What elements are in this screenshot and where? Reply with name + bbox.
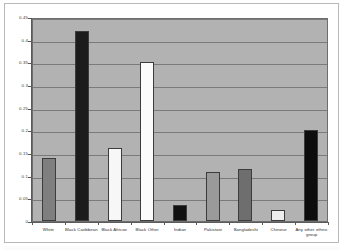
y-axis-tick-label: 0 (0, 219, 28, 224)
x-axis-tick-mark (98, 222, 99, 225)
bar (173, 205, 187, 221)
x-axis-tick-label: Black Caribbean (65, 227, 98, 238)
x-axis-tick-mark (229, 222, 230, 225)
bar-slot (196, 19, 229, 221)
chart-figure: 00.050.10.150.20.250.30.350.40.45 WhiteB… (0, 0, 344, 251)
x-axis-tick-label: White (32, 227, 65, 238)
y-axis-tick-mark (28, 63, 31, 64)
bar-slot (98, 19, 131, 221)
plot-area (32, 18, 328, 222)
x-axis-tick-label: Chinese (262, 227, 295, 238)
x-axis-tick-label: Any other ethnic group (295, 227, 328, 238)
bar (206, 172, 220, 221)
y-axis-tick-label: 0.4 (0, 38, 28, 43)
y-axis-tick-mark (28, 222, 31, 223)
y-axis-tick-label: 0.1 (0, 174, 28, 179)
x-axis-tick-label: Bangladeshi (229, 227, 262, 238)
bar-slot (66, 19, 99, 221)
x-axis-tick-mark (65, 222, 66, 225)
bar (271, 210, 285, 221)
x-axis-tick-mark (131, 222, 132, 225)
bar (75, 31, 89, 221)
x-axis-tick-mark (328, 222, 329, 225)
x-axis-tick-mark (262, 222, 263, 225)
bar-slot (294, 19, 327, 221)
bar-series (33, 19, 327, 221)
bar (304, 130, 318, 221)
y-axis-tick-label: 0.3 (0, 83, 28, 88)
y-axis-tick-label: 0.45 (0, 15, 28, 20)
y-axis-tick-label: 0.05 (0, 196, 28, 201)
bar-slot (131, 19, 164, 221)
x-axis-tick-mark (32, 222, 33, 225)
bar (42, 158, 56, 221)
y-axis-tick-mark (28, 154, 31, 155)
y-axis-tick-label: 0.2 (0, 128, 28, 133)
x-axis-tick-label: Black Other (131, 227, 164, 238)
y-axis-tick-mark (28, 131, 31, 132)
y-axis-tick-label: 0.35 (0, 60, 28, 65)
y-axis-line (31, 18, 32, 223)
bar-slot (229, 19, 262, 221)
x-axis-line (31, 222, 329, 223)
bar (238, 169, 252, 221)
page-strip-below-figure (4, 246, 339, 250)
bar-slot (164, 19, 197, 221)
bar-slot (33, 19, 66, 221)
bar-slot (262, 19, 295, 221)
y-axis-tick-mark (28, 199, 31, 200)
x-axis-tick-mark (164, 222, 165, 225)
y-axis-tick-label: 0.15 (0, 151, 28, 156)
x-axis-tick-mark (295, 222, 296, 225)
y-axis-tick-mark (28, 177, 31, 178)
y-axis-tick-mark (28, 18, 31, 19)
x-axis-tick-mark (196, 222, 197, 225)
bar (108, 148, 122, 221)
x-axis-tick-label: Black African (98, 227, 131, 238)
x-axis-tick-label: Indian (164, 227, 197, 238)
x-axis-tick-label: Pakistani (196, 227, 229, 238)
bar (140, 62, 154, 221)
y-axis-tick-mark (28, 41, 31, 42)
y-axis-tick-mark (28, 109, 31, 110)
y-axis-tick-label: 0.25 (0, 106, 28, 111)
y-axis-tick-mark (28, 86, 31, 87)
x-axis-labels: WhiteBlack CaribbeanBlack AfricanBlack O… (32, 227, 328, 238)
